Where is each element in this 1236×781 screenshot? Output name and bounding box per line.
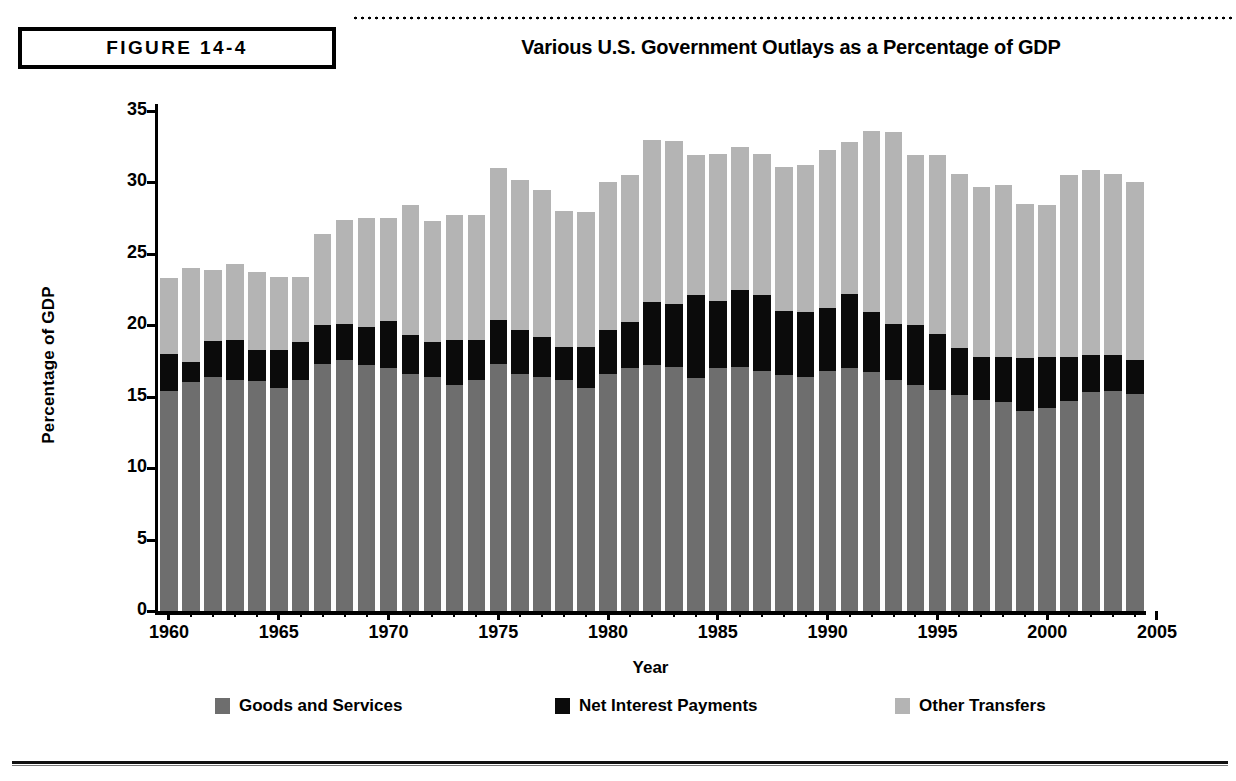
x-tick-mark-minor [673,611,675,617]
legend-swatch-icon [555,698,570,714]
x-tick-mark-minor [519,611,521,617]
x-tick-mark-minor [388,611,390,617]
x-tick-mark-minor [366,611,368,617]
x-tick-mark-minor [1112,611,1114,617]
x-tick-mark-minor [1046,611,1048,617]
x-tick-mark-minor [871,611,873,617]
x-tick-mark-minor [629,611,631,617]
x-tick-mark-minor [849,611,851,617]
x-tick-mark-minor [936,611,938,617]
x-tick-mark-minor [607,611,609,617]
x-tick-label-2005: 2005 [1122,622,1192,643]
x-tick-mark-minor [1156,611,1158,617]
x-tick-label-1960: 1960 [134,622,204,643]
figure-root: FIGURE 14-4 Various U.S. Government Outl… [0,0,1236,781]
x-tick-mark-minor [431,611,433,617]
x-tick-mark-minor [168,611,170,617]
x-tick-mark-minor [344,611,346,617]
x-tick-mark-minor [695,611,697,617]
legend-item-1: Net Interest Payments [555,696,758,716]
x-tick-mark-minor [300,611,302,617]
legend-item-2: Other Transfers [895,696,1046,716]
x-tick-mark-minor [1024,611,1026,617]
x-tick-mark-minor [783,611,785,617]
x-tick-mark-minor [1090,611,1092,617]
x-tick-mark-minor [893,611,895,617]
x-tick-label-1995: 1995 [902,622,972,643]
x-tick-mark-minor [212,611,214,617]
legend-label: Other Transfers [919,696,1046,716]
x-tick-mark-minor [585,611,587,617]
x-tick-label-1985: 1985 [683,622,753,643]
x-tick-mark-minor [541,611,543,617]
x-tick-mark-minor [1002,611,1004,617]
x-tick-mark-minor [453,611,455,617]
x-tick-mark-minor [805,611,807,617]
x-tick-label-1990: 1990 [793,622,863,643]
footer-rule [12,761,1228,764]
legend-label: Goods and Services [239,696,402,716]
legend-label: Net Interest Payments [579,696,758,716]
x-tick-mark-minor [914,611,916,617]
x-tick-label-1965: 1965 [244,622,314,643]
x-tick-label-1980: 1980 [573,622,643,643]
x-tick-mark-minor [563,611,565,617]
x-tick-mark-minor [827,611,829,617]
x-tick-mark-minor [256,611,258,617]
x-tick-mark-minor [761,611,763,617]
x-tick-mark-minor [322,611,324,617]
x-tick-mark-minor [717,611,719,617]
x-tick-mark-minor [190,611,192,617]
x-tick-mark-minor [1068,611,1070,617]
legend-swatch-icon [215,698,230,714]
x-tick-mark-minor [980,611,982,617]
x-tick-label-1975: 1975 [463,622,533,643]
x-tick-label-1970: 1970 [354,622,424,643]
x-tick-mark-minor [497,611,499,617]
x-axis-tick-labels: 1960196519701975198019851990199520002005 [0,0,1236,781]
x-tick-mark-minor [958,611,960,617]
x-tick-mark-minor [739,611,741,617]
x-tick-mark-minor [234,611,236,617]
x-tick-mark-minor [651,611,653,617]
plot-area: Percentage of GDP Year 05101520253035 19… [0,0,1236,781]
x-tick-mark-minor [409,611,411,617]
x-tick-mark-minor [278,611,280,617]
legend-swatch-icon [895,698,910,714]
x-tick-mark-minor [475,611,477,617]
x-tick-mark-minor [1134,611,1136,617]
x-tick-label-2000: 2000 [1012,622,1082,643]
legend-item-0: Goods and Services [215,696,402,716]
chart-legend: Goods and ServicesNet Interest PaymentsO… [155,696,1146,720]
footer-rule-shadow [12,765,1228,766]
